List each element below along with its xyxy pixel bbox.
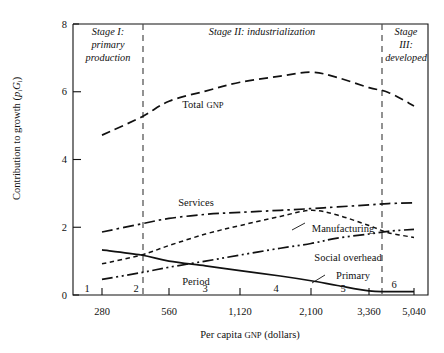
y-ticklabel-2: 2 [62, 222, 67, 233]
x-ticklabel-3360: 3,360 [357, 306, 381, 317]
x-ticklabel-2100: 2,100 [299, 306, 323, 317]
y-axis-title-main: Contribution to growth ( [11, 97, 23, 200]
x-axis-title-part1: Per capita [200, 329, 244, 340]
period-number-2: 2 [133, 283, 138, 294]
svg-text:Per capita GNP (dollars): Per capita GNP (dollars) [200, 329, 300, 341]
x-ticklabel-5040: 5,040 [402, 306, 426, 317]
x-axis-title: Per capita GNP (dollars) [200, 329, 300, 341]
stage-3-line-1: Stage [395, 26, 418, 37]
y-ticklabel-6: 6 [62, 86, 67, 97]
x-axis-title-gnp: GNP [244, 330, 261, 340]
y-ticklabel-8: 8 [62, 19, 67, 30]
y-ticklabel-4: 4 [62, 154, 68, 165]
series-label-services: Services [178, 197, 214, 208]
period-number-5: 5 [340, 283, 345, 294]
stage-1-annotation: Stage I: primary production [85, 26, 131, 63]
stage-1-line-1: Stage I: [92, 26, 124, 37]
stage-2-annotation: Stage II: industrialization [209, 26, 315, 37]
period-number-6: 6 [391, 279, 396, 290]
series-label-total-gnp: Total GNP [182, 99, 223, 110]
stage-1-line-2: primary [90, 39, 125, 50]
svg-text:Contribution to growth (piGi): Contribution to growth (piGi) [11, 76, 24, 200]
period-axis-label: Period [182, 276, 210, 287]
stage-2-line-1: Stage II: industrialization [209, 26, 315, 37]
y-axis-title: Contribution to growth (piGi) [11, 76, 24, 200]
economic-growth-contribution-chart: 0 2 4 6 8 Contribution to growth (piGi) … [0, 0, 444, 353]
chart-figure: 0 2 4 6 8 Contribution to growth (piGi) … [0, 0, 444, 353]
stage-1-line-3: production [85, 52, 131, 63]
series-label-manufacturing: Manufacturing [312, 223, 375, 234]
y-ticklabel-0: 0 [62, 290, 67, 301]
series-label-social-overhead: Social overhead [314, 252, 382, 263]
period-number-4: 4 [273, 283, 279, 294]
x-ticklabel-1120: 1,120 [228, 306, 252, 317]
x-axis-title-part2: (dollars) [262, 329, 301, 341]
period-number-1: 1 [84, 283, 89, 294]
x-ticklabel-560: 560 [161, 306, 177, 317]
stage-3-line-3: developed [385, 52, 428, 63]
series-label-total-gnp-smallcaps: GNP [206, 100, 223, 110]
x-ticklabel-280: 280 [94, 306, 110, 317]
series-label-total-gnp-main: Total [182, 99, 206, 110]
stage-3-line-2: III: [398, 39, 413, 50]
y-axis-title-close: ) [11, 76, 23, 80]
series-label-primary: Primary [336, 270, 371, 281]
